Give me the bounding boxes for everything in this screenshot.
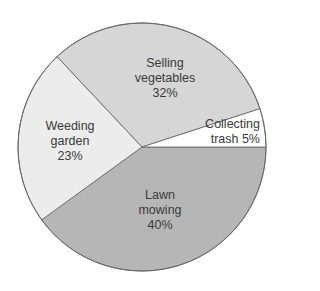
- label-selling-vegetables-line1: Selling: [135, 56, 195, 71]
- label-lawn-mowing-line2: mowing: [138, 203, 181, 218]
- label-collecting-trash: Collecting trash 5%: [205, 117, 260, 147]
- label-collecting-trash-line1: Collecting: [205, 117, 260, 132]
- label-lawn-mowing-line1: Lawn: [138, 188, 181, 203]
- label-selling-vegetables-pct: 32%: [135, 86, 195, 101]
- label-weeding-garden-line1: Weeding: [45, 119, 94, 134]
- label-lawn-mowing-pct: 40%: [138, 218, 181, 233]
- label-lawn-mowing: Lawn mowing 40%: [138, 188, 181, 233]
- label-collecting-trash-line2: trash 5%: [205, 132, 260, 147]
- label-weeding-garden: Weeding garden 23%: [45, 119, 94, 164]
- label-weeding-garden-line2: garden: [45, 134, 94, 149]
- label-selling-vegetables-line2: vegetables: [135, 71, 195, 86]
- label-weeding-garden-pct: 23%: [45, 149, 94, 164]
- label-selling-vegetables: Selling vegetables 32%: [135, 56, 195, 101]
